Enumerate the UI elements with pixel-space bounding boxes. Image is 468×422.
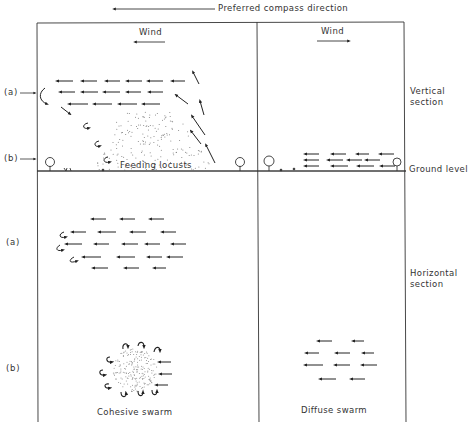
diffuse-swarm-caption: Diffuse swarm [301,405,367,415]
marker-b-vertical: (b) [4,153,18,163]
vertical-cohesive-arrows [57,72,215,163]
cohesive-swarm-curls [100,342,160,396]
diffuse-swarm-arrows [305,341,377,379]
marker-arrows [20,93,35,159]
vertical-section-label-1: Vertical [410,86,445,96]
vertical-diffuse-arrows [305,154,395,166]
wind-label-left: Wind [139,27,162,37]
compass-direction-label: Preferred compass direction [218,3,348,13]
curl-arrows-vertical [40,88,110,162]
wind-label-right: Wind [321,26,344,36]
curl-arrows-horizontal-a [57,232,77,262]
horizontal-cohesive-arrows [66,219,186,268]
tree-icon [46,156,402,171]
cohesive-swarm-caption: Cohesive swarm [97,407,172,417]
vertical-section-label-2: section [410,97,443,107]
marker-b-horizontal: (b) [6,363,20,373]
horizontal-section-label-1: Horizontal [410,268,457,278]
cohesive-swarm-stipple [113,348,157,392]
marker-a-vertical: (a) [4,87,18,97]
horizontal-section-label-2: section [410,279,443,289]
feeding-locusts-label: Feeding locusts [120,160,192,170]
marker-a-horizontal: (a) [6,237,20,247]
ground-level-label: Ground level [409,164,468,174]
cohesive-swarm-arrows [156,362,172,385]
diagram-frame [37,22,406,422]
